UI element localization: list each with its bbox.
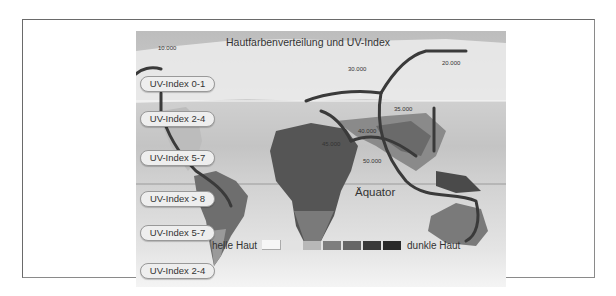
legend-left-label: helle Haut [212, 240, 257, 251]
uv-band-label: UV-Index 5-7 [140, 225, 215, 241]
uv-band-label: UV-Index 5-7 [140, 150, 215, 166]
legend-swatch [262, 240, 281, 250]
figure-title: Hautfarbenverteilung und UV-Index [226, 36, 390, 48]
migration-year-label: 45.000 [322, 141, 340, 147]
uv-band-label: UV-Index 0-1 [140, 76, 215, 92]
migration-year-label: 30.000 [348, 66, 366, 72]
legend-swatch [363, 241, 381, 250]
migration-year-label: 20.000 [442, 60, 460, 66]
uv-band-label: UV-Index 2-4 [140, 111, 215, 127]
uv-band-label: UV-Index 2-4 [140, 263, 215, 279]
legend-swatch [303, 241, 321, 250]
northern-landmass [136, 39, 506, 103]
legend-swatch [383, 241, 401, 250]
migration-year-label: 50.000 [363, 158, 381, 164]
migration-year-label: 10.000 [158, 45, 176, 51]
migration-year-label: 35.000 [394, 106, 412, 112]
migration-year-label: 40.000 [358, 128, 376, 134]
uv-band-label: UV-Index > 8 [140, 191, 215, 207]
legend-swatch [343, 241, 361, 250]
equator-label: Äquator [355, 186, 395, 198]
skin-color-legend: helle Haut dunkle Haut [212, 238, 460, 252]
legend-right-label: dunkle Haut [407, 240, 460, 251]
legend-swatch [283, 241, 301, 250]
legend-swatch [323, 241, 341, 250]
